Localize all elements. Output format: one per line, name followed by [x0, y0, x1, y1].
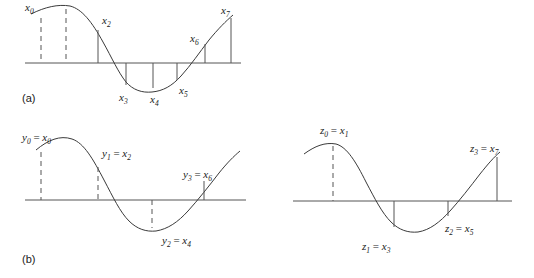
- label-y2: y2 = x4: [161, 234, 191, 249]
- label-z0: z0 = x1: [319, 124, 348, 139]
- panel-a: x0 x2 x3 x4 x5 x6 x7: [24, 1, 241, 108]
- figure-sampling-decimation: x0 x2 x3 x4 x5 x6 x7 y0 = x0 y1 = x2 y2 …: [0, 0, 534, 278]
- label-x4: x4: [149, 93, 159, 108]
- label-y1: y1 = x2: [101, 147, 131, 162]
- label-x3: x3: [118, 91, 128, 106]
- panel-b-right: z0 = x1 z1 = x3 z2 = x5 z3 = x7: [293, 124, 512, 255]
- label-x6: x6: [189, 32, 199, 47]
- label-x7: x7: [220, 4, 230, 19]
- label-z1: z1 = x3: [361, 240, 391, 255]
- panel-b-caption: (b): [22, 253, 35, 265]
- label-x0: x0: [24, 1, 34, 16]
- panel-a-waveform: [31, 5, 233, 92]
- label-y0: y0 = x0: [21, 131, 51, 146]
- label-y3: y3 = x6: [182, 168, 212, 183]
- label-x5: x5: [178, 84, 188, 99]
- figure-svg: x0 x2 x3 x4 x5 x6 x7 y0 = x0 y1 = x2 y2 …: [0, 0, 534, 278]
- panel-b-left-waveform: [36, 138, 240, 232]
- panel-a-caption: (a): [22, 92, 35, 104]
- label-z3: z3 = x7: [469, 142, 499, 157]
- label-z2: z2 = x5: [444, 222, 474, 237]
- panel-b-left: y0 = x0 y1 = x2 y2 = x4 y3 = x6: [21, 131, 246, 249]
- label-x2: x2: [101, 14, 111, 29]
